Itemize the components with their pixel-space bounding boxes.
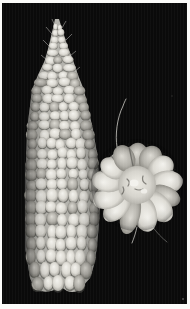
corn-photograph: A whole ear of corn stands vertically on… (0, 0, 190, 309)
dust-speck (182, 298, 184, 300)
rosette-shading (91, 139, 183, 231)
corn-photo-canvas (0, 0, 190, 309)
dust-speck (171, 95, 173, 97)
